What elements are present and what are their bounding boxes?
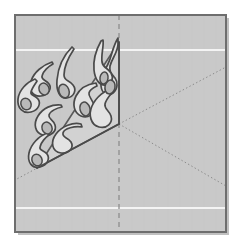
kirigami-pattern-figure: Kirigami fold-and-cut pattern [0, 0, 238, 244]
